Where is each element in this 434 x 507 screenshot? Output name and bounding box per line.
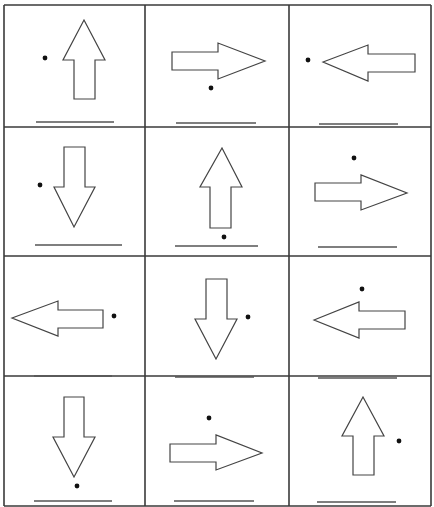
- arrow-left-icon: [323, 45, 415, 81]
- reference-dot: [352, 156, 357, 161]
- arrow-left-icon: [12, 301, 103, 336]
- arrow-down-icon: [195, 279, 237, 359]
- reference-dot: [222, 235, 227, 240]
- cell-r2-c2: [314, 287, 405, 378]
- reference-dot: [112, 314, 117, 319]
- arrow-direction-worksheet: [0, 0, 434, 507]
- arrow-up-icon: [63, 20, 105, 99]
- reference-dot: [207, 416, 212, 421]
- arrow-down-icon: [53, 397, 95, 477]
- reference-dot: [246, 315, 251, 320]
- arrow-right-icon: [170, 435, 262, 470]
- cell-r1-c0: [35, 147, 122, 245]
- cell-r3-c1: [170, 416, 262, 501]
- reference-dot: [360, 287, 365, 292]
- arrow-down-icon: [54, 147, 95, 227]
- cell-r3-c2: [317, 397, 401, 502]
- arrow-up-icon: [200, 148, 242, 228]
- reference-dot: [397, 439, 402, 444]
- cell-r2-c1: [175, 279, 254, 377]
- arrow-right-icon: [315, 175, 407, 210]
- cell-r1-c2: [315, 156, 407, 247]
- reference-dot: [209, 86, 214, 91]
- arrow-right-icon: [172, 43, 265, 79]
- cell-r3-c0: [34, 397, 112, 501]
- cell-r0-c2: [306, 45, 415, 124]
- arrow-up-icon: [342, 397, 384, 475]
- arrow-left-icon: [314, 302, 405, 338]
- reference-dot: [75, 484, 80, 489]
- cell-r0-c0: [36, 20, 114, 122]
- reference-dot: [43, 56, 48, 61]
- reference-dot: [38, 183, 43, 188]
- reference-dot: [306, 58, 311, 63]
- cell-r2-c0: [12, 301, 116, 376]
- cell-r0-c1: [172, 43, 265, 123]
- cell-r1-c1: [175, 148, 258, 246]
